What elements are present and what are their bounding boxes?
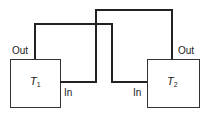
- t2-subscript: 2: [174, 81, 178, 88]
- t2-in-label: In: [133, 88, 141, 98]
- t2-letter: T: [167, 75, 174, 87]
- t1-in-label: In: [64, 88, 72, 98]
- t2-title: T2: [167, 76, 178, 88]
- wire-t2-out-to-t1-in: [60, 10, 172, 82]
- t1-out-label: Out: [12, 46, 28, 56]
- t2-out-label: Out: [178, 46, 194, 56]
- t1-letter: T: [30, 75, 37, 87]
- wire-t1-out-to-t2-in: [35, 24, 147, 82]
- diagram-canvas: [0, 0, 207, 114]
- t1-subscript: 1: [37, 81, 41, 88]
- t1-title: T1: [30, 76, 41, 88]
